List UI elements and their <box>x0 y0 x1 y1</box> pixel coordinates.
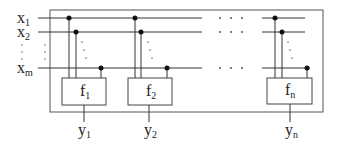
function-network-diagram: x1 x2 xm f1 f2 fn y1 y2 yn <box>0 0 339 146</box>
junction-dot <box>99 66 104 71</box>
junction-dot <box>133 16 138 21</box>
output-label-y1: y1 <box>78 121 91 140</box>
input-label-xm: xm <box>17 59 33 78</box>
junction-dot <box>139 30 144 35</box>
output-label-y2: y2 <box>144 121 157 140</box>
function-block-f1 <box>62 16 106 123</box>
function-block-fn <box>267 16 312 123</box>
junction-dot <box>74 30 79 35</box>
junction-dot <box>273 16 278 21</box>
junction-dot <box>165 66 170 71</box>
junction-dot <box>280 30 285 35</box>
horizontal-ellipsis <box>219 17 243 69</box>
function-block-f2 <box>128 16 172 123</box>
vertical-ellipsis-inputs <box>21 44 45 59</box>
output-label-yn: yn <box>285 121 298 140</box>
junction-dot <box>305 66 310 71</box>
junction-dot <box>67 16 72 21</box>
